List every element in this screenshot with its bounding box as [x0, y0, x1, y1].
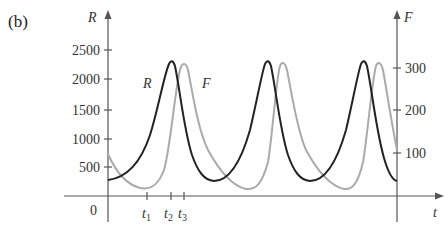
f-tick-200: 200: [405, 103, 426, 118]
r-tick-2500: 2500: [72, 43, 100, 58]
r-tick-2000: 2000: [72, 72, 100, 87]
r-tick-1500: 1500: [72, 103, 100, 118]
t2-label: t2: [164, 206, 173, 223]
predator-prey-chart: (b) R F t 0 2500 2000 1500 1000 500 300 …: [0, 0, 447, 239]
r-tick-1000: 1000: [72, 132, 100, 147]
r-curve-label: R: [142, 76, 152, 91]
r-tick-500: 500: [79, 160, 100, 175]
t-axis-label: t: [433, 205, 438, 220]
axes: [64, 16, 438, 222]
t3-label: t3: [178, 206, 187, 223]
f-axis-label: F: [403, 10, 413, 25]
f-curve-label: F: [201, 76, 211, 91]
panel-label: (b): [8, 12, 28, 31]
f-tick-100: 100: [405, 146, 426, 161]
f-tick-300: 300: [405, 61, 426, 76]
origin-label: 0: [90, 203, 97, 218]
r-axis-arrow-icon: [105, 10, 112, 19]
t1-label: t1: [142, 206, 151, 223]
r-axis-label: R: [87, 10, 97, 25]
t-axis-arrow-icon: [435, 193, 444, 200]
f-axis-arrow-icon: [394, 10, 401, 19]
